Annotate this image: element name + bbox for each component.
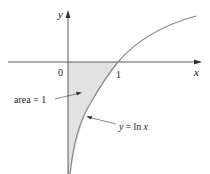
area-annotation: area = 1 (14, 94, 46, 105)
y-axis-arrow-icon (66, 10, 71, 18)
curve-leader (88, 117, 116, 124)
curve-annotation: y= lnx (118, 121, 148, 132)
x-axis-label: x (193, 66, 199, 78)
origin-label: 0 (58, 67, 63, 78)
curve-leader-arrow-icon (86, 116, 92, 120)
x-axis-arrow-icon (194, 60, 202, 65)
ln-graph: y x 0 1 area = 1 y= lnx (0, 0, 210, 174)
y-axis-label: y (57, 8, 63, 20)
tick-label-1: 1 (116, 69, 121, 80)
